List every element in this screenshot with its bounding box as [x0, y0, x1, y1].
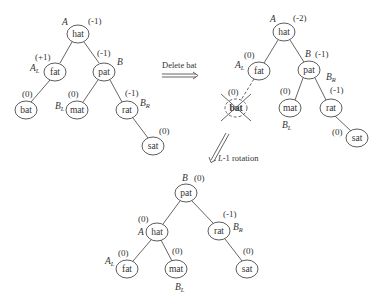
balance-factor: (0)	[118, 248, 129, 258]
balance-factor: (0)	[194, 173, 205, 183]
node-label: AL	[234, 60, 245, 71]
node-label: A	[269, 14, 276, 24]
balance-factor: (0)	[332, 127, 343, 137]
balance-factor: (0)	[172, 246, 183, 256]
edge-hat-fat	[60, 42, 72, 63]
node-label: BL	[175, 282, 185, 293]
node-sat: sat	[236, 260, 258, 278]
node-key: hat	[72, 29, 84, 39]
node-fat: fat	[248, 62, 270, 80]
edge-pat-rat	[315, 78, 326, 100]
node-hat: hat	[67, 25, 89, 43]
node-hat: hat	[273, 23, 295, 41]
arrow-label: L-1 rotation	[217, 153, 259, 163]
edge-pat-mat	[295, 78, 303, 100]
balance-factor: (0)	[244, 50, 255, 60]
balance-factor: (-1)	[97, 48, 111, 58]
node-key: rat	[122, 105, 132, 115]
node-key: bat	[20, 105, 32, 115]
edge-hat-fat	[133, 240, 151, 261]
edge-rat-sat	[225, 239, 242, 261]
node-key: hat	[151, 227, 163, 237]
arrow-l1-rotation: L-1 rotation	[209, 133, 259, 163]
node-sat: sat	[346, 129, 368, 147]
node-label: B	[182, 173, 188, 183]
balance-factor: (0)	[228, 87, 239, 97]
balance-factor: (-1)	[125, 88, 139, 98]
node-rat: rat	[208, 222, 230, 240]
node-fat: fat	[44, 63, 66, 81]
tree-after-delete: hat A (-2) fat AL (0) pat B (-1) BR bat …	[221, 13, 368, 147]
node-label: B	[117, 57, 123, 67]
node-mat: mat	[66, 101, 88, 119]
tree-before: hat A (-1) fat AL (+1) pat B (-1) bat (0…	[15, 16, 170, 155]
arrow-head-icon	[193, 72, 198, 79]
balance-factor: (-1)	[88, 16, 102, 26]
node-key: fat	[122, 264, 132, 274]
arrow-delete-bat: Delete bat	[162, 60, 198, 79]
node-key: mat	[283, 103, 298, 113]
node-pat: pat	[298, 61, 320, 79]
node-key: sat	[148, 141, 159, 151]
avl-deletion-diagram: hat A (-1) fat AL (+1) pat B (-1) bat (0…	[0, 0, 385, 304]
balance-factor: (0)	[138, 214, 149, 224]
node-label: BL	[55, 101, 65, 112]
node-key: mat	[169, 264, 184, 274]
node-label: BR	[233, 222, 243, 233]
edge-hat-fat	[264, 40, 278, 63]
node-key: pat	[180, 188, 192, 198]
node-key: fat	[50, 67, 60, 77]
edge-pat-rat	[192, 201, 213, 223]
node-fat: fat	[116, 260, 138, 278]
node-key: pat	[303, 65, 315, 75]
node-key: hat	[278, 27, 290, 37]
balance-factor: (0)	[280, 86, 291, 96]
node-key: sat	[352, 133, 363, 143]
node-bat: bat	[15, 101, 37, 119]
edge-pat-mat	[83, 80, 98, 102]
node-key: sat	[242, 264, 253, 274]
balance-factor: (0)	[243, 246, 254, 256]
node-mat: mat	[165, 260, 187, 278]
node-key: fat	[254, 66, 264, 76]
edge-hat-pat	[290, 40, 304, 62]
node-label: AL	[104, 256, 115, 267]
balance-factor: (0)	[159, 126, 170, 136]
node-pat: pat	[175, 184, 197, 202]
node-rat: rat	[116, 101, 138, 119]
edge-fat-bat	[31, 80, 50, 102]
edge-hat-mat	[161, 240, 172, 261]
edge-rat-sat	[133, 118, 148, 138]
arrow-label: Delete bat	[162, 60, 197, 70]
node-hat: hat	[146, 223, 168, 241]
node-key: mat	[70, 105, 85, 115]
tree-after-rotation: pat B (0) hat A (0) rat BR (-1) fat AL (…	[104, 173, 258, 293]
node-rat: rat	[320, 99, 342, 117]
balance-factor: (0)	[22, 89, 33, 99]
node-label: BR	[140, 98, 150, 109]
edge-pat-rat	[110, 80, 122, 102]
node-label: A	[61, 17, 68, 27]
node-label: A	[137, 227, 144, 237]
node-key: rat	[326, 103, 336, 113]
node-label: AL	[29, 63, 40, 74]
node-sat: sat	[142, 137, 164, 155]
edge-pat-hat	[163, 201, 180, 224]
node-key: rat	[214, 226, 224, 236]
node-label-br: BR	[326, 72, 336, 83]
node-pat: pat	[93, 63, 115, 81]
balance-factor: (-2)	[293, 13, 307, 23]
balance-factor: (0)	[68, 89, 79, 99]
balance-factor: (-1)	[315, 49, 329, 59]
node-label: B	[305, 49, 311, 59]
balance-factor: (-1)	[223, 209, 237, 219]
balance-factor: (-1)	[330, 85, 344, 95]
node-mat: mat	[279, 99, 301, 117]
node-label: BL	[282, 120, 292, 131]
balance-factor: (+1)	[35, 52, 51, 62]
node-key: pat	[98, 67, 110, 77]
node-bat-deleted: bat	[221, 94, 251, 121]
